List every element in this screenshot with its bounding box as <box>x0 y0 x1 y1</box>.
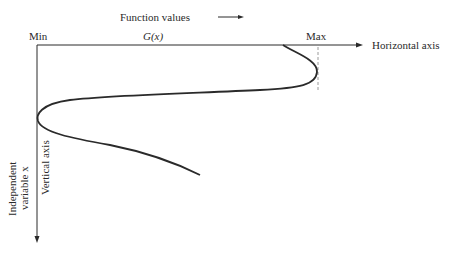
vertical-axis-label-wrap: Vertical axis <box>40 140 51 195</box>
function-curve <box>38 45 317 175</box>
axes-and-curve <box>0 0 458 253</box>
independent-variable-label: Independent variable x <box>7 162 30 216</box>
vertical-axis-arrowhead <box>35 236 40 243</box>
vertical-axis-label: Vertical axis <box>40 140 51 195</box>
horizontal-axis-arrowhead <box>356 43 363 48</box>
independent-label-line2: variable x <box>19 162 30 216</box>
independent-label-line1: Independent <box>7 162 18 216</box>
